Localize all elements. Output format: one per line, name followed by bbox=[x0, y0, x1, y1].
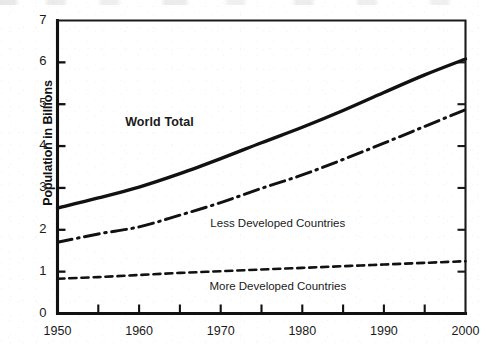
series-line-1 bbox=[58, 110, 466, 243]
series-line-2 bbox=[58, 261, 466, 279]
population-chart-figure: Population in Billions 01234567 19501960… bbox=[0, 0, 486, 352]
plot-area bbox=[0, 0, 486, 352]
series-lines bbox=[58, 59, 466, 279]
